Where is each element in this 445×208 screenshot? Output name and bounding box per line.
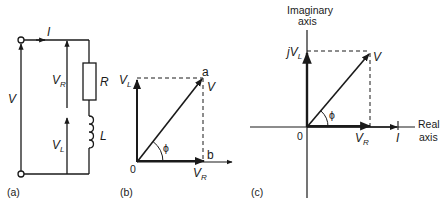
- resistor: [83, 63, 96, 100]
- real-axis-label-1: Real: [418, 118, 440, 130]
- v-label-b: V: [207, 80, 216, 94]
- phasor-figure: I V VR R VL L (a) VL a V b 0 ϕ VR (b): [0, 0, 445, 208]
- vl-label-b: VL: [119, 73, 131, 89]
- panel-b-labels: VL a V b 0 ϕ VR (b): [119, 65, 216, 198]
- vl-label: VL: [52, 138, 64, 154]
- origin-label-b: 0: [130, 163, 136, 175]
- v-phasor: [137, 79, 202, 162]
- caption-b: (b): [120, 186, 133, 198]
- inductor-label: L: [100, 129, 107, 143]
- source-voltage-label: V: [8, 92, 17, 106]
- inductor-coil: [89, 116, 94, 148]
- origin-label-c: 0: [297, 130, 303, 142]
- resistor-label: R: [100, 75, 109, 89]
- caption-c: (c): [251, 186, 263, 198]
- v-phasor-c: [307, 54, 369, 127]
- real-axis-label-2: axis: [419, 131, 438, 143]
- phi-label-c: ϕ: [329, 109, 335, 121]
- point-b-label: b: [207, 148, 214, 162]
- point-a-label: a: [202, 65, 209, 79]
- terminal-bottom: [18, 171, 24, 177]
- vr-label: VR: [52, 73, 66, 89]
- vr-label-b: VR: [193, 166, 207, 182]
- panel-a-circuit: [18, 37, 96, 177]
- phi-arc-c: [321, 111, 328, 127]
- vr-label-c: VR: [355, 131, 369, 147]
- panel-c-labels: Imaginary axis jVL V 0 ϕ VR I Real axis …: [251, 4, 440, 198]
- jvl-label: jVL: [285, 45, 302, 61]
- phi-arc: [153, 142, 163, 163]
- v-label-c: V: [373, 50, 382, 64]
- caption-a: (a): [7, 186, 20, 198]
- phi-label-b: ϕ: [163, 142, 169, 154]
- current-label: I: [47, 25, 51, 39]
- imag-axis-label-2: axis: [298, 15, 317, 27]
- i-label-c: I: [396, 131, 400, 145]
- terminal-top: [18, 37, 24, 43]
- panel-b-phasor: [137, 78, 232, 162]
